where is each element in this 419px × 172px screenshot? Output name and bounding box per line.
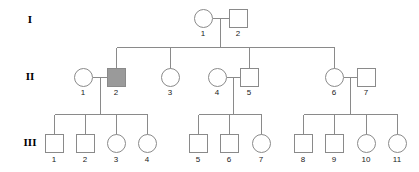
individual-iii-2-male-square — [77, 135, 95, 153]
id-label-ii-2: 2 — [114, 88, 119, 97]
generation-label-iii: III — [24, 136, 37, 148]
pedigree-canvas: 1212345671234567891011 IIIIII — [0, 0, 419, 172]
individual-iii-7-female-circle — [253, 135, 271, 153]
id-label-iii-1: 1 — [52, 155, 57, 164]
individual-ii-3-female-circle — [162, 69, 180, 87]
individual-iii-3-female-circle — [108, 135, 126, 153]
individual-ii-4-female-circle — [209, 69, 227, 87]
id-label-iii-5: 5 — [196, 155, 201, 164]
individual-iii-4-female-circle — [139, 135, 157, 153]
id-label-iii-10: 10 — [362, 155, 371, 164]
generation-labels-layer: IIIIII — [24, 13, 37, 148]
id-label-iii-9: 9 — [332, 155, 337, 164]
individual-iii-5-male-square — [190, 135, 208, 153]
generation-label-ii: II — [26, 70, 35, 82]
id-label-iii-4: 4 — [145, 155, 150, 164]
individual-iii-1-male-square — [46, 135, 64, 153]
individual-ii-5-male-square — [241, 69, 259, 87]
individual-ii-7-male-square — [358, 69, 376, 87]
id-label-iii-2: 2 — [83, 155, 88, 164]
id-label-ii-4: 4 — [215, 88, 220, 97]
individual-iii-9-male-square — [326, 135, 344, 153]
id-label-iii-8: 8 — [301, 155, 306, 164]
individual-iii-8-male-square — [295, 135, 313, 153]
id-label-ii-3: 3 — [168, 88, 173, 97]
individual-iii-6-male-square — [221, 135, 239, 153]
individual-symbols-layer — [46, 10, 407, 153]
individual-ii-1-female-circle — [75, 69, 93, 87]
individual-i-2-male-square — [230, 10, 248, 28]
id-label-ii-7: 7 — [364, 88, 369, 97]
id-label-iii-3: 3 — [114, 155, 119, 164]
id-label-ii-1: 1 — [81, 88, 86, 97]
individual-i-1-female-circle — [195, 10, 213, 28]
individual-ii-6-female-circle — [326, 69, 344, 87]
id-label-iii-11: 11 — [393, 155, 402, 164]
id-label-iii-6: 6 — [227, 155, 232, 164]
id-label-ii-5: 5 — [247, 88, 252, 97]
id-label-i-2: 2 — [236, 29, 241, 38]
individual-iii-11-female-circle — [389, 135, 407, 153]
id-label-iii-7: 7 — [259, 155, 264, 164]
pedigree-chart: 1212345671234567891011 IIIIII — [0, 0, 419, 172]
generation-label-i: I — [28, 13, 32, 25]
individual-ii-2-male-square-affected — [108, 69, 126, 87]
id-label-ii-6: 6 — [332, 88, 337, 97]
individual-iii-10-female-circle — [358, 135, 376, 153]
id-label-i-1: 1 — [201, 29, 206, 38]
